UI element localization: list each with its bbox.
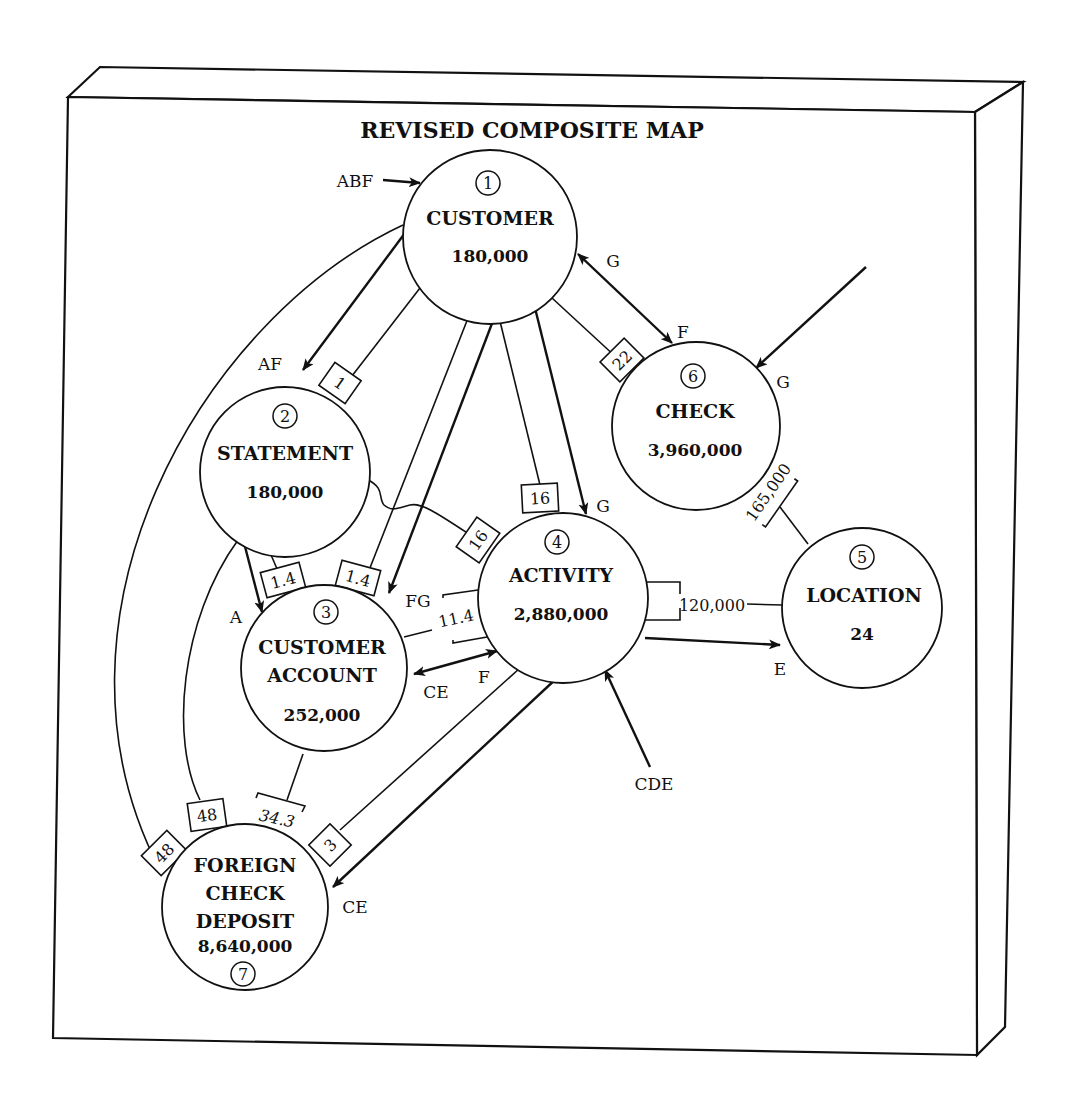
- label-fcd-from-activity: CE: [342, 897, 367, 917]
- node-volume: 252,000: [284, 705, 361, 725]
- node-activity: 4 ACTIVITY 2,880,000: [478, 513, 648, 683]
- node-name-line1: CUSTOMER: [258, 636, 386, 658]
- ratio-label-activity-location: 120,000: [679, 596, 745, 615]
- composite-map-diagram: REVISED COMPOSITE MAP: [0, 0, 1073, 1115]
- frame-right-face: [975, 82, 1023, 1055]
- node-volume: 8,640,000: [198, 936, 293, 956]
- svg-text:4: 4: [552, 533, 562, 552]
- label-account-from-activity: CE: [423, 682, 448, 702]
- diagram-title: REVISED COMPOSITE MAP: [360, 117, 703, 143]
- svg-text:1: 1: [483, 174, 493, 193]
- node-name: CHECK: [655, 400, 736, 422]
- svg-text:3: 3: [321, 603, 331, 622]
- label-check-from-customer: F: [677, 322, 689, 342]
- node-customer: 1 CUSTOMER 180,000: [403, 150, 577, 324]
- node-volume: 180,000: [452, 246, 529, 266]
- label-check-entry: G: [776, 372, 790, 392]
- label-customer-entry: ABF: [336, 171, 374, 191]
- node-volume: 2,880,000: [514, 604, 609, 624]
- svg-text:16: 16: [529, 488, 550, 508]
- label-customer-from-check: G: [606, 251, 620, 271]
- label-location-from-activity: E: [774, 659, 786, 679]
- label-activity-from-account: F: [478, 667, 490, 687]
- node-foreign-check-deposit: FOREIGN CHECK DEPOSIT 8,640,000 7: [162, 824, 328, 990]
- edge-activity-location-ratio: [747, 604, 782, 605]
- node-location: 5 LOCATION 24: [782, 528, 942, 688]
- node-name: LOCATION: [806, 584, 922, 606]
- node-name-line2: ACCOUNT: [266, 664, 377, 686]
- node-check: 6 CHECK 3,960,000: [612, 342, 780, 510]
- label-statement-entry: AF: [257, 354, 282, 374]
- node-statement: 2 STATEMENT 180,000: [200, 387, 370, 557]
- node-name: STATEMENT: [217, 442, 353, 464]
- node-name: CUSTOMER: [426, 207, 554, 229]
- node-volume: 3,960,000: [648, 440, 743, 460]
- ratio-box-customer-activity: 16: [521, 483, 558, 513]
- node-name-line2: CHECK: [205, 882, 286, 904]
- ratio-box-statement-fcd: 48: [187, 799, 227, 832]
- node-customer-account: 3 CUSTOMER ACCOUNT 252,000: [241, 585, 407, 751]
- node-name-line3: DEPOSIT: [196, 910, 295, 932]
- svg-text:6: 6: [688, 367, 698, 386]
- svg-text:2: 2: [280, 407, 290, 426]
- label-account-from-customer: FG: [405, 591, 430, 611]
- label-activity-entry: CDE: [634, 774, 673, 794]
- svg-text:5: 5: [857, 548, 867, 567]
- label-activity-from-customer: G: [596, 496, 610, 516]
- svg-text:120,000: 120,000: [679, 596, 745, 615]
- node-name: ACTIVITY: [508, 564, 614, 586]
- node-name-line1: FOREIGN: [194, 854, 297, 876]
- node-volume: 180,000: [247, 482, 324, 502]
- label-account-from-statement: A: [229, 607, 243, 627]
- svg-text:7: 7: [238, 965, 248, 984]
- svg-text:48: 48: [196, 805, 219, 827]
- node-volume: 24: [850, 624, 874, 644]
